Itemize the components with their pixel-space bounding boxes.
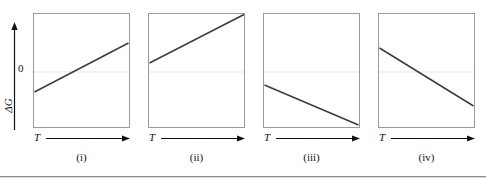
panel-caption-i: (i) <box>33 152 130 163</box>
trend-line-iv <box>380 48 474 106</box>
plot-panel-iii <box>263 13 360 128</box>
panel-caption-iii: (iii) <box>263 152 360 163</box>
bottom-divider <box>0 176 486 178</box>
panel-caption-iv: (iv) <box>378 152 475 163</box>
y-axis-zero-label: 0 <box>18 63 24 74</box>
plot-curve-iv <box>378 13 475 128</box>
y-axis-group: 0 ΔG <box>0 0 33 150</box>
plot-panel-ii <box>148 13 245 128</box>
x-axis-label-iv: T <box>379 132 385 143</box>
thermodynamics-delta-g-vs-t-figure: 0 ΔG T (i) T (ii) <box>0 0 486 182</box>
panel-caption-ii: (ii) <box>148 152 245 163</box>
x-axis-arrow-icon-ii <box>161 134 245 143</box>
x-axis-group-i: T <box>33 131 130 147</box>
x-axis-label-i: T <box>34 132 40 143</box>
x-axis-arrow-icon-iii <box>276 134 360 143</box>
x-axis-label-ii: T <box>149 132 155 143</box>
plot-panel-i <box>33 13 130 128</box>
x-axis-group-iv: T <box>378 131 475 147</box>
x-axis-label-iii: T <box>264 132 270 143</box>
plot-curve-ii <box>148 13 245 128</box>
plot-curve-i <box>33 13 130 128</box>
trend-line-ii <box>150 15 245 64</box>
plot-panel-iv <box>378 13 475 128</box>
y-axis-title: ΔG <box>3 89 14 123</box>
trend-line-i <box>35 43 129 92</box>
x-axis-arrow-icon-i <box>46 134 130 143</box>
plot-curve-iii <box>263 13 360 128</box>
x-axis-arrow-icon-iv <box>391 134 475 143</box>
x-axis-group-iii: T <box>263 131 360 147</box>
x-axis-group-ii: T <box>148 131 245 147</box>
trend-line-iii <box>265 85 359 125</box>
